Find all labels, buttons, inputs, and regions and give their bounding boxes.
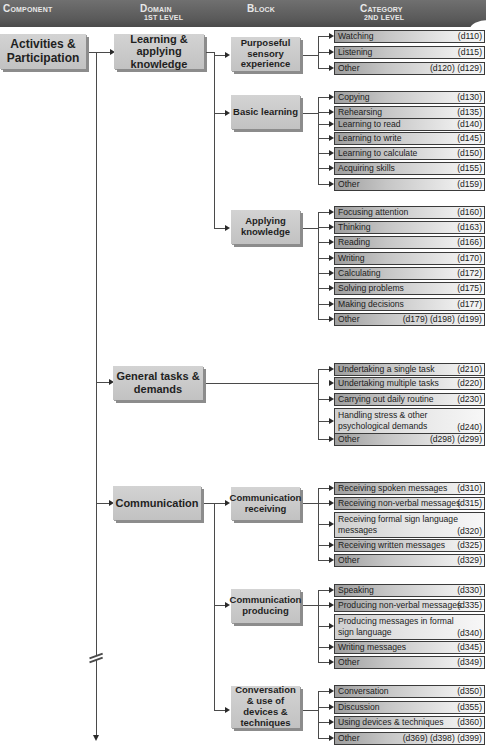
category-code: (d315) xyxy=(457,498,482,509)
category-label: Producing messages in formal sign langua… xyxy=(338,616,454,638)
category-label: Watching xyxy=(338,31,374,42)
category-item: Other(d179) (d198) (d199) xyxy=(334,313,485,326)
category-item: Producing messages in formal sign langua… xyxy=(334,614,485,640)
connector-line xyxy=(303,113,319,114)
category-item: Writing(d170) xyxy=(334,252,485,265)
category-code: (d350) xyxy=(457,686,482,697)
category-item: Using devices & techniques(d360) xyxy=(334,716,485,729)
category-code: (d310) xyxy=(457,483,482,494)
category-item: Receiving spoken messages(d310) xyxy=(334,482,485,495)
category-label: Writing xyxy=(338,253,365,264)
category-code: (d150) xyxy=(457,148,482,159)
connector-line xyxy=(303,503,319,504)
header-category-sublabel: 2nd level xyxy=(364,14,404,21)
arrow-right-icon xyxy=(225,110,230,116)
category-code: (d155) xyxy=(457,163,482,174)
category-code: (d175) xyxy=(457,283,482,294)
category-label: Receiving written messages xyxy=(338,540,445,551)
category-item: Discussion(d355) xyxy=(334,701,485,714)
category-label: Conversation xyxy=(338,686,389,697)
arrow-right-icon xyxy=(225,225,230,231)
domain-label: Learning & applying knowledge xyxy=(114,33,204,71)
category-code: (d345) xyxy=(457,642,482,653)
category-label: Producing non-verbal messages xyxy=(338,600,461,611)
category-code: (d120) (d129) xyxy=(430,63,482,74)
arrow-right-icon xyxy=(225,52,230,58)
category-item: Thinking(d163) xyxy=(334,221,485,234)
category-label: Solving problems xyxy=(338,283,404,294)
category-label: Focusing attention xyxy=(338,207,408,218)
category-code: (d170) xyxy=(457,253,482,264)
category-item: Other(d349) xyxy=(334,656,485,669)
category-code: (d360) xyxy=(457,717,482,728)
category-code: (d329) xyxy=(457,555,482,566)
category-code: (d340) xyxy=(457,628,482,639)
category-item: Carrying out daily routine(d230) xyxy=(334,393,485,406)
category-label: Other xyxy=(338,555,360,566)
category-spine xyxy=(318,369,319,440)
header-domain-label: Domain xyxy=(140,3,172,14)
category-code: (d230) xyxy=(457,394,482,405)
connector-line xyxy=(303,605,319,606)
category-code: (d369) (d398) (d399) xyxy=(403,733,482,744)
connector-line xyxy=(303,710,319,711)
category-item: Solving problems(d175) xyxy=(334,282,485,295)
header-component-label: Component xyxy=(3,3,52,14)
category-code: (d172) xyxy=(457,268,482,279)
domain-box-learning: Learning & applying knowledge xyxy=(114,34,204,69)
category-label: Handling stress & other psychological de… xyxy=(338,410,427,432)
block-box-communication-receiving: Communication receiving xyxy=(231,487,300,520)
category-item: Producing non-verbal messages(d335) xyxy=(334,599,485,612)
category-item: Conversation(d350) xyxy=(334,685,485,698)
category-label: Other xyxy=(338,657,360,668)
block-label: Basic learning xyxy=(233,107,298,118)
block-box-basic-learning: Basic learning xyxy=(231,95,300,129)
category-item: Copying(d130) xyxy=(334,91,485,104)
domain-box-general-tasks: General tasks & demands xyxy=(113,366,203,400)
category-label: Rehearsing xyxy=(338,107,382,118)
category-code: (d163) xyxy=(457,222,482,233)
category-code: (d210) xyxy=(457,364,482,375)
category-item: Focusing attention(d160) xyxy=(334,206,485,219)
category-code: (d130) xyxy=(457,92,482,103)
category-spine xyxy=(318,97,319,184)
category-label: Undertaking a single task xyxy=(338,364,435,375)
domain-box-communication: Communication xyxy=(113,486,201,520)
category-code: (d115) xyxy=(458,47,482,58)
category-code: (d145) xyxy=(457,133,482,144)
category-label: Learning to write xyxy=(338,133,402,144)
domain-label: Communication xyxy=(115,497,198,510)
connector-component-learning xyxy=(89,52,111,53)
category-code: (d160) xyxy=(457,207,482,218)
category-item: Handling stress & other psychological de… xyxy=(334,408,485,434)
category-code: (d179) (d198) (d199) xyxy=(403,314,482,325)
category-label: Using devices & techniques xyxy=(338,717,444,728)
domain-label: General tasks & demands xyxy=(113,370,203,395)
category-item: Speaking(d330) xyxy=(334,584,485,597)
header-domain: Domain1st level xyxy=(140,3,183,21)
category-item: Other(d369) (d398) (d399) xyxy=(334,732,485,745)
header-component: Component xyxy=(3,3,52,14)
category-code: (d140) xyxy=(457,119,482,130)
category-label: Other xyxy=(338,63,360,74)
category-label: Thinking xyxy=(338,222,370,233)
component-label: Activities & Participation xyxy=(0,38,86,66)
category-label: Speaking xyxy=(338,585,374,596)
category-label: Carrying out daily routine xyxy=(338,394,434,405)
category-code: (d335) xyxy=(457,600,482,611)
category-spine xyxy=(318,691,319,738)
category-label: Acquiring skills xyxy=(338,163,395,174)
category-item: Reading(d166) xyxy=(334,236,485,249)
category-code: (d330) xyxy=(457,585,482,596)
category-code: (d320) xyxy=(457,526,482,537)
category-item: Other(d298) (d299) xyxy=(334,433,485,446)
category-label: Undertaking multiple tasks xyxy=(338,378,439,389)
category-code: (d240) xyxy=(457,422,482,433)
category-item: Other(d329) xyxy=(334,554,485,567)
connector-line xyxy=(206,383,319,384)
component-box: Activities & Participation xyxy=(0,34,86,69)
block-label: Applying knowledge xyxy=(231,216,300,238)
connector-line xyxy=(303,228,319,229)
category-label: Receiving formal sign language messages xyxy=(338,514,458,536)
category-code: (d325) xyxy=(457,540,482,551)
